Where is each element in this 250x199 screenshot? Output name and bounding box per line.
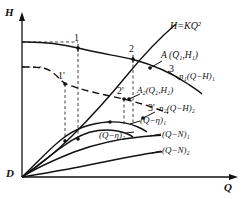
point-3-prime-label: 3' [148, 103, 155, 113]
y-axis-arrow [19, 12, 25, 21]
x-axis-arrow [229, 174, 238, 180]
x-axis-label: Q [224, 182, 232, 193]
curve-QH1-label: n₁(Q−H)₁ [179, 72, 215, 81]
curve-Qeta2-label: (Q−η)₂ [99, 131, 125, 140]
point-A1-label: A (Q₁,H₁) [161, 51, 198, 61]
point-2-prime-label: 2' [117, 86, 124, 96]
curve-QN2-label: (Q−N)₂ [162, 146, 190, 155]
point-3-label: 3 [169, 64, 174, 74]
point-1-label: 1 [74, 33, 79, 43]
figure-canvas [0, 0, 250, 199]
pump-characteristic-figure: H Q D H=KQ² 1 2 1' 2' 3 3' A (Q₁,H₁) n₁(… [0, 0, 250, 199]
marker-eta1-peak [108, 120, 112, 124]
curve-QH2-label: n₂(Q−H)₂ [159, 104, 195, 113]
y-axis-label: H [5, 7, 14, 18]
marker-point-A1 [148, 66, 152, 70]
point-A2-label: A₂(Q₂,H₂) [137, 86, 173, 95]
point-2-label: 2 [129, 44, 134, 54]
system-equation-label: H=KQ² [170, 21, 201, 31]
curve-qeta1 [22, 122, 147, 177]
curve-Qeta1-label: (Q−η)₁ [140, 116, 166, 125]
leader-qeta1 [130, 121, 140, 124]
marker-point-1p [63, 82, 67, 86]
marker-eta-left-1 [76, 137, 80, 141]
marker-eta-left-2 [63, 139, 67, 143]
curve-QN1-label: (Q−N)₁ [162, 130, 190, 139]
marker-point-2p [122, 97, 126, 101]
leader-qeta2 [126, 132, 134, 133]
marker-point-A2 [127, 97, 131, 101]
origin-label: D [6, 168, 14, 179]
point-1-prime-label: 1' [58, 71, 65, 81]
